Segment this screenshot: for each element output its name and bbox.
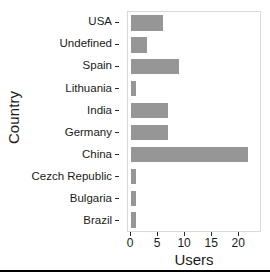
bar-row	[131, 209, 260, 231]
y-axis-tick-mark	[115, 66, 119, 67]
y-axis-title-text: Country	[6, 91, 23, 144]
y-axis-tick: USA	[22, 11, 123, 33]
y-axis-tick: Spain	[22, 55, 123, 77]
y-axis-tick-label: Bulgaria	[70, 193, 112, 205]
y-axis-tick-label: USA	[88, 16, 112, 28]
bar	[131, 169, 136, 184]
bar-row	[131, 122, 260, 144]
y-axis-tick-label: Germany	[65, 127, 112, 139]
bar-row	[131, 143, 260, 165]
x-axis-tick-label: 15	[205, 237, 218, 249]
bar	[131, 191, 136, 206]
plot-panel	[127, 11, 261, 232]
x-axis-tick-labels: 05101520	[130, 237, 261, 251]
y-axis-tick-mark	[115, 220, 119, 221]
bar	[131, 125, 168, 140]
bar-row	[131, 34, 260, 56]
x-axis-title: Users	[127, 252, 261, 267]
y-axis-tick-label: Cezch Republic	[31, 171, 112, 183]
y-axis-tick-mark	[115, 110, 119, 111]
bar-series	[131, 12, 260, 231]
x-axis-tick-label: 20	[232, 237, 245, 249]
x-axis-tick-label: 5	[154, 237, 161, 249]
y-axis-tick-mark	[115, 132, 119, 133]
bar-row	[131, 165, 260, 187]
y-axis-tick-mark	[115, 154, 119, 155]
x-axis-tick-label: 0	[127, 237, 134, 249]
y-axis-tick-labels: USAUndefinedSpainLithuaniaIndiaGermanyCh…	[22, 11, 123, 232]
y-axis-tick-label: Brazil	[83, 215, 112, 227]
y-axis-tick: India	[22, 99, 123, 121]
bar	[131, 147, 248, 162]
y-axis-tick-label: Lithuania	[65, 83, 112, 95]
bottom-divider	[0, 270, 270, 272]
bar-row	[131, 78, 260, 100]
y-axis-tick: Brazil	[22, 210, 123, 232]
bar	[131, 15, 163, 30]
bar-row	[131, 100, 260, 122]
bar	[131, 59, 179, 74]
y-axis-tick-label: Undefined	[60, 38, 112, 50]
y-axis-tick: Lithuania	[22, 77, 123, 99]
y-axis-tick-mark	[115, 44, 119, 45]
bar-chart: Country USAUndefinedSpainLithuaniaIndiaG…	[0, 0, 270, 280]
y-axis-tick: China	[22, 144, 123, 166]
y-axis-tick-label: India	[87, 105, 112, 117]
bar-row	[131, 187, 260, 209]
y-axis-tick: Bulgaria	[22, 188, 123, 210]
y-axis-tick-mark	[115, 198, 119, 199]
y-axis-tick: Undefined	[22, 33, 123, 55]
y-axis-tick: Germany	[22, 121, 123, 143]
y-axis-tick-mark	[115, 22, 119, 23]
y-axis-tick-label: China	[82, 149, 112, 161]
y-axis-tick-label: Spain	[83, 60, 112, 72]
y-axis-tick: Cezch Republic	[22, 166, 123, 188]
bar-row	[131, 12, 260, 34]
bar	[131, 212, 136, 227]
bar-row	[131, 56, 260, 78]
y-axis-tick-mark	[115, 88, 119, 89]
y-axis-tick-mark	[115, 176, 119, 177]
x-axis-tick-label: 10	[177, 237, 190, 249]
bar	[131, 37, 147, 52]
bar	[131, 103, 168, 118]
bar	[131, 81, 136, 96]
